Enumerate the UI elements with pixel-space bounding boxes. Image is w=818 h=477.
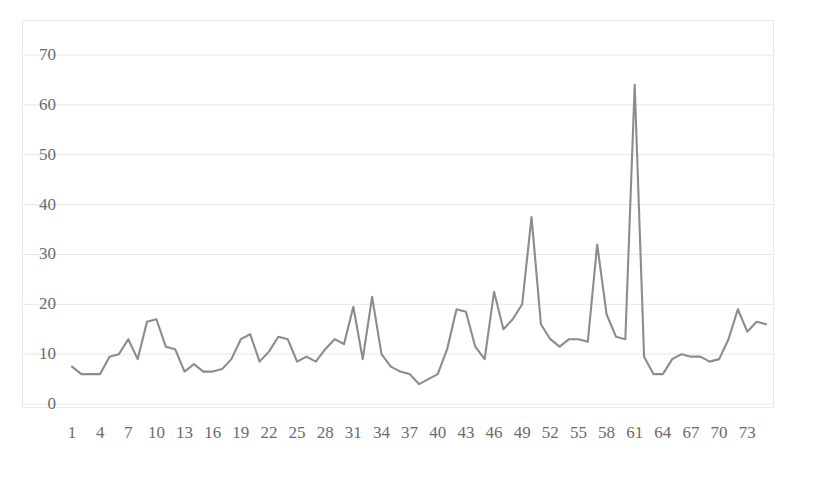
- x-tick-label-67: 67: [676, 424, 706, 441]
- x-tick-label-34: 34: [366, 424, 396, 441]
- line-chart-canvas: [0, 0, 818, 477]
- x-tick-label-70: 70: [704, 424, 734, 441]
- chart-container: 010203040506070 147101316192225283134374…: [0, 0, 818, 477]
- x-tick-label-49: 49: [507, 424, 537, 441]
- gridlines: [23, 55, 773, 404]
- y-tick-label-0: 0: [16, 395, 56, 412]
- y-tick-label-70: 70: [16, 46, 56, 63]
- x-tick-label-58: 58: [592, 424, 622, 441]
- x-tick-label-31: 31: [338, 424, 368, 441]
- y-tick-label-60: 60: [16, 96, 56, 113]
- series-polyline: [72, 85, 766, 384]
- x-tick-label-10: 10: [141, 424, 171, 441]
- x-tick-label-43: 43: [451, 424, 481, 441]
- y-tick-label-20: 20: [16, 295, 56, 312]
- x-tick-label-37: 37: [395, 424, 425, 441]
- x-tick-label-40: 40: [423, 424, 453, 441]
- y-tick-label-10: 10: [16, 345, 56, 362]
- data-series-line: [72, 85, 766, 384]
- x-tick-label-25: 25: [282, 424, 312, 441]
- x-tick-label-28: 28: [310, 424, 340, 441]
- x-tick-label-46: 46: [479, 424, 509, 441]
- y-tick-label-50: 50: [16, 146, 56, 163]
- y-tick-label-40: 40: [16, 196, 56, 213]
- x-tick-label-13: 13: [170, 424, 200, 441]
- x-tick-label-7: 7: [113, 424, 143, 441]
- x-tick-label-52: 52: [535, 424, 565, 441]
- x-tick-label-64: 64: [648, 424, 678, 441]
- x-tick-label-22: 22: [254, 424, 284, 441]
- x-tick-label-4: 4: [85, 424, 115, 441]
- x-tick-label-1: 1: [57, 424, 87, 441]
- x-tick-label-55: 55: [563, 424, 593, 441]
- x-tick-label-16: 16: [198, 424, 228, 441]
- x-tick-label-73: 73: [732, 424, 762, 441]
- y-tick-label-30: 30: [16, 245, 56, 262]
- x-tick-label-61: 61: [620, 424, 650, 441]
- x-tick-label-19: 19: [226, 424, 256, 441]
